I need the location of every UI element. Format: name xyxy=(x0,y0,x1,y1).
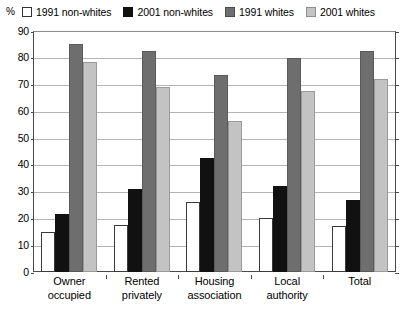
bar xyxy=(41,232,55,272)
legend-item-2: 1991 whites xyxy=(225,7,294,18)
x-tick-mark-4 xyxy=(323,275,324,279)
y-tick-label-40: 40 xyxy=(3,159,29,170)
bar xyxy=(346,200,360,272)
bars-layer xyxy=(33,31,396,272)
y-tick-label-10: 10 xyxy=(3,240,29,251)
bar xyxy=(69,44,83,272)
x-tick-label-2: Housingassociation xyxy=(178,275,251,302)
bar-chart: % 1991 non-whites 2001 non-whites 1991 w… xyxy=(0,0,411,316)
y-tick-label-90: 90 xyxy=(3,26,29,37)
y-tick-label-70: 70 xyxy=(3,79,29,90)
bar xyxy=(186,202,200,272)
bar xyxy=(156,87,170,272)
bar xyxy=(55,214,69,272)
legend-label-1991-whites: 1991 whites xyxy=(239,7,294,18)
bar xyxy=(128,189,142,272)
x-tick-mark-2 xyxy=(178,275,179,279)
bar-group-1 xyxy=(106,31,179,272)
y-tick-label-60: 60 xyxy=(3,106,29,117)
bar-group-4 xyxy=(323,31,396,272)
legend-item-1: 2001 non-whites xyxy=(123,7,213,18)
legend-label-2001-whites: 2001 whites xyxy=(320,7,375,18)
bar-group-2 xyxy=(178,31,251,272)
bar-group-0 xyxy=(33,31,106,272)
bar xyxy=(273,186,287,272)
legend-swatch-1991-non-whites xyxy=(22,7,32,17)
y-tick-label-0: 0 xyxy=(3,267,29,278)
bar xyxy=(374,79,388,272)
bar xyxy=(228,121,242,272)
bar xyxy=(301,91,315,272)
x-tick-label-3: Localauthority xyxy=(251,275,324,302)
bar xyxy=(200,158,214,272)
x-tick-label-1: Rentedprivately xyxy=(106,275,179,302)
legend-item-3: 2001 whites xyxy=(306,7,375,18)
y-tick-mark-right-0 xyxy=(395,273,399,274)
y-tick-label-50: 50 xyxy=(3,133,29,144)
bar xyxy=(83,62,97,272)
bar xyxy=(360,51,374,272)
legend-label-1991-non-whites: 1991 non-whites xyxy=(36,7,112,18)
bar xyxy=(142,51,156,272)
x-axis: OwneroccupiedRentedprivatelyHousingassoc… xyxy=(33,275,396,315)
legend-label-2001-non-whites: 2001 non-whites xyxy=(137,7,213,18)
chart-legend: % 1991 non-whites 2001 non-whites 1991 w… xyxy=(6,3,405,21)
legend-swatch-2001-non-whites xyxy=(123,7,133,17)
bar xyxy=(332,226,346,272)
legend-swatch-2001-whites xyxy=(306,7,316,17)
legend-item-0: 1991 non-whites xyxy=(22,7,112,18)
y-tick-mark-0 xyxy=(31,273,35,274)
x-tick-mark-3 xyxy=(251,275,252,279)
x-tick-mark-1 xyxy=(106,275,107,279)
bar xyxy=(114,225,128,272)
bar xyxy=(214,75,228,272)
y-tick-label-20: 20 xyxy=(3,213,29,224)
percent-unit-label: % xyxy=(6,7,15,17)
bar-group-3 xyxy=(251,31,324,272)
bar xyxy=(287,58,301,272)
bar xyxy=(259,218,273,272)
x-tick-label-0: Owneroccupied xyxy=(33,275,106,302)
legend-swatch-1991-whites xyxy=(225,7,235,17)
x-tick-label-4: Total xyxy=(323,275,396,289)
y-axis: 0102030405060708090 xyxy=(0,31,29,272)
y-tick-label-30: 30 xyxy=(3,186,29,197)
y-tick-label-80: 80 xyxy=(3,52,29,63)
